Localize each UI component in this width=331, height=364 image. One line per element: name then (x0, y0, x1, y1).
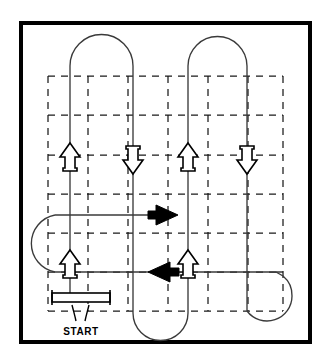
path-loop-top-right (188, 37, 247, 66)
serpentine-path-diagram: START (0, 0, 331, 364)
figure-canvas: START (0, 0, 331, 364)
arrow-down-1-icon (123, 146, 143, 174)
start-brace-right (85, 305, 89, 321)
arrow-down-2-icon (237, 146, 257, 174)
path-loop-bottom-right (247, 272, 292, 321)
path-loop-left (31, 215, 55, 272)
arrow-up-2-icon (178, 143, 198, 171)
arrow-up-3-icon (60, 250, 80, 278)
arrow-left-1-icon (148, 262, 179, 282)
solid-arrows (148, 205, 179, 282)
arrow-up-1-icon (60, 143, 80, 171)
start-bar (52, 293, 110, 302)
path-loop-top-left (70, 35, 133, 66)
path-loop-bottom-mid (133, 313, 188, 341)
arrow-right-1-icon (148, 205, 178, 225)
start-label: START (63, 326, 99, 337)
start-marker: START (52, 290, 110, 337)
start-brace-left (72, 305, 76, 321)
arrow-up-4-icon (178, 250, 198, 278)
